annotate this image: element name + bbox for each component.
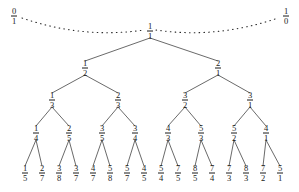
tree-node-3-over-2-numerator: 3 (183, 91, 187, 100)
tree-edge (52, 75, 85, 93)
tree-node-1-over-5-denominator: 5 (23, 174, 27, 183)
tree-node-4-over-5-denominator: 5 (142, 174, 146, 183)
tree-node-2-over-3-numerator: 2 (116, 91, 120, 100)
boundary-fraction-0-over-1-numerator: 0 (12, 7, 16, 16)
tree-node-1-over-3: 13 (49, 91, 55, 110)
tree-node-2-over-7-numerator: 2 (40, 164, 44, 173)
tree-node-7-over-5-denominator: 5 (176, 174, 180, 183)
boundary-fraction-1-over-0: 10 (283, 7, 289, 26)
tree-node-8-over-3-numerator: 8 (244, 164, 248, 173)
tree-node-2-over-1: 21 (215, 59, 221, 78)
tree-node-1-over-1-numerator: 1 (148, 22, 152, 31)
tree-node-1-over-3-numerator: 1 (50, 91, 54, 100)
tree-node-4-over-7: 47 (90, 164, 96, 183)
tree-node-1-over-2-numerator: 1 (83, 59, 87, 68)
tree-node-5-over-7: 57 (124, 164, 130, 183)
tree-node-4-over-3: 43 (165, 124, 171, 143)
tree-node-4-over-5: 45 (141, 164, 147, 183)
tree-node-2-over-7-denominator: 7 (40, 174, 44, 183)
tree-node-1-over-1: 11 (147, 22, 153, 41)
tree-node-7-over-4: 74 (209, 164, 215, 183)
boundary-fraction-1-over-0-denominator: 0 (284, 17, 288, 26)
tree-node-4-over-3-numerator: 4 (166, 124, 170, 133)
tree-node-8-over-5-numerator: 8 (193, 164, 197, 173)
tree-node-7-over-2-denominator: 2 (261, 174, 265, 183)
tree-edge (218, 75, 250, 93)
tree-node-3-over-5-numerator: 3 (100, 124, 104, 133)
tree-node-8-over-5: 85 (192, 164, 198, 183)
tree-node-7-over-2-numerator: 7 (261, 164, 265, 173)
tree-node-1-over-4-denominator: 4 (34, 134, 38, 143)
tree-node-8-over-3-denominator: 3 (244, 174, 248, 183)
tree-node-5-over-7-denominator: 7 (125, 174, 129, 183)
tree-edge (85, 75, 118, 93)
tree-node-1-over-4-numerator: 1 (34, 124, 38, 133)
tree-node-5-over-4-numerator: 5 (159, 164, 163, 173)
tree-node-5-over-8-denominator: 8 (108, 174, 112, 183)
tree-node-1-over-2: 12 (82, 59, 88, 78)
tree-node-4-over-7-denominator: 7 (91, 174, 95, 183)
tree-node-3-over-2: 32 (182, 91, 188, 110)
tree-edge (85, 38, 150, 61)
tree-node-3-over-4: 34 (132, 124, 138, 143)
tree-node-3-over-8-denominator: 8 (57, 174, 61, 183)
tree-node-2-over-7: 27 (39, 164, 45, 183)
tree-node-2-over-3: 23 (115, 91, 121, 110)
boundary-fraction-0-over-1-denominator: 1 (12, 17, 16, 26)
tree-node-1-over-3-denominator: 3 (50, 101, 54, 110)
tree-node-1-over-2-denominator: 2 (83, 69, 87, 78)
tree-node-1-over-4: 14 (33, 124, 39, 143)
tree-node-3-over-4-numerator: 3 (133, 124, 137, 133)
tree-node-3-over-1-numerator: 3 (248, 91, 252, 100)
tree-node-3-over-5: 35 (99, 124, 105, 143)
tree-node-7-over-3-numerator: 7 (227, 164, 231, 173)
tree-node-4-over-5-numerator: 4 (142, 164, 146, 173)
tree-node-5-over-3: 53 (198, 124, 204, 143)
tree-node-7-over-5: 75 (175, 164, 181, 183)
tree-node-3-over-8-numerator: 3 (57, 164, 61, 173)
tree-edge (185, 75, 218, 93)
tree-node-3-over-7-numerator: 3 (74, 164, 78, 173)
tree-node-2-over-5: 25 (66, 124, 72, 143)
tree-node-1-over-5-numerator: 1 (23, 164, 27, 173)
tree-node-7-over-3-denominator: 3 (227, 174, 231, 183)
tree-node-7-over-4-denominator: 4 (210, 174, 214, 183)
tree-node-8-over-3: 83 (243, 164, 249, 183)
dotted-arc (156, 18, 278, 33)
tree-node-7-over-3: 73 (226, 164, 232, 183)
tree-node-4-over-1: 41 (263, 124, 269, 143)
boundary-fraction-1-over-0-numerator: 1 (284, 7, 288, 16)
tree-node-4-over-7-numerator: 4 (91, 164, 95, 173)
boundary-fraction-0-over-1: 01 (11, 7, 17, 26)
tree-node-5-over-8-numerator: 5 (108, 164, 112, 173)
solid-edge-group (25, 38, 280, 166)
tree-node-4-over-3-denominator: 3 (166, 134, 170, 143)
tree-node-5-over-1-denominator: 1 (278, 174, 282, 183)
tree-node-2-over-1-numerator: 2 (216, 59, 220, 68)
tree-edge (150, 38, 218, 61)
tree-node-3-over-8: 38 (56, 164, 62, 183)
dotted-arc (22, 18, 144, 33)
tree-node-3-over-7-denominator: 7 (74, 174, 78, 183)
tree-node-4-over-1-denominator: 1 (264, 134, 268, 143)
tree-node-4-over-1-numerator: 4 (264, 124, 268, 133)
tree-node-3-over-2-denominator: 2 (183, 101, 187, 110)
tree-node-2-over-5-numerator: 2 (67, 124, 71, 133)
tree-node-7-over-5-numerator: 7 (176, 164, 180, 173)
tree-node-2-over-1-denominator: 1 (216, 69, 220, 78)
tree-node-5-over-2: 52 (231, 124, 237, 143)
tree-node-7-over-4-numerator: 7 (210, 164, 214, 173)
tree-node-8-over-5-denominator: 5 (193, 174, 197, 183)
tree-node-7-over-2: 72 (260, 164, 266, 183)
tree-node-5-over-3-denominator: 3 (199, 134, 203, 143)
tree-node-5-over-2-numerator: 5 (232, 124, 236, 133)
tree-node-5-over-1: 51 (277, 164, 283, 183)
tree-node-1-over-5: 15 (22, 164, 28, 183)
tree-node-3-over-1: 31 (247, 91, 253, 110)
tree-diagram-canvas: 0110111221132332311425353443535241152738… (0, 0, 299, 192)
tree-node-1-over-1-denominator: 1 (148, 32, 152, 41)
tree-node-5-over-7-numerator: 5 (125, 164, 129, 173)
tree-node-3-over-4-denominator: 4 (133, 134, 137, 143)
tree-node-5-over-1-numerator: 5 (278, 164, 282, 173)
tree-node-3-over-1-denominator: 1 (248, 101, 252, 110)
